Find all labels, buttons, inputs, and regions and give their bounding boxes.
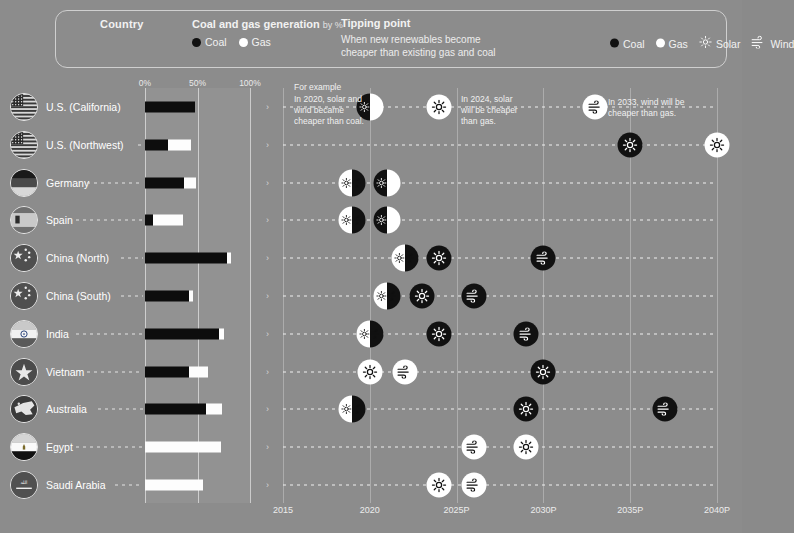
- tipping-point-marker-wind-black[interactable]: [514, 321, 539, 346]
- tipping-point-marker-solar-white[interactable]: [514, 435, 539, 460]
- wind-icon: [751, 36, 766, 51]
- generation-title-sub: by %: [323, 20, 343, 30]
- tipping-point-marker-solar-wind-white[interactable]: [339, 169, 366, 196]
- egypt-flag-icon: [10, 433, 38, 461]
- for-example-label: For example: [294, 82, 341, 92]
- tipping-point-marker-solar-black[interactable]: [409, 284, 434, 309]
- tipping-point-marker-solar-black[interactable]: [531, 359, 556, 384]
- tipping-legend-wind: Wind: [751, 36, 794, 51]
- leader-dots: [76, 447, 143, 448]
- gas-bar-segment: [227, 253, 231, 264]
- row-chevron-icon[interactable]: ›: [266, 215, 269, 225]
- tipping-point-marker-solar-black[interactable]: [618, 132, 643, 157]
- tipping-legend-gas-label: Gas: [669, 37, 688, 49]
- tipping-point-marker-solar-wind-white[interactable]: [391, 245, 418, 272]
- tipping-point-marker-wind-white[interactable]: [461, 435, 486, 460]
- table-row[interactable]: Spain›: [0, 201, 742, 239]
- tipping-legend: Coal Gas Solar Wind: [610, 36, 794, 51]
- header-country-label: Country: [100, 18, 144, 30]
- generation-bar: [145, 291, 250, 302]
- solar-icon: [519, 402, 534, 417]
- filled-circle-icon: [610, 39, 619, 48]
- country-name: Spain: [46, 214, 73, 226]
- tipping-point-marker-wind-black[interactable]: [531, 246, 556, 271]
- tipping-point-marker-wind-black[interactable]: [461, 284, 486, 309]
- row-chevron-icon[interactable]: ›: [266, 404, 269, 414]
- coal-bar-segment: [145, 328, 219, 339]
- tipping-point-marker-solar-wind-white[interactable]: [356, 320, 383, 347]
- table-row[interactable]: India›: [0, 315, 742, 353]
- solar-icon: [699, 36, 712, 51]
- table-row[interactable]: اللهSaudi Arabia›: [0, 466, 742, 504]
- row-chevron-icon[interactable]: ›: [266, 291, 269, 301]
- solar-icon: [519, 440, 534, 455]
- gas-bar-segment: [189, 366, 208, 377]
- generation-bar: [145, 404, 250, 415]
- row-chevron-icon[interactable]: ›: [266, 329, 269, 339]
- table-row[interactable]: Australia›: [0, 390, 742, 428]
- usa-flag-icon: [10, 93, 38, 121]
- coal-bar-segment: [145, 253, 227, 264]
- tipping-point-marker-solar-black[interactable]: [427, 246, 452, 271]
- country-name: Vietnam: [46, 366, 84, 378]
- solar-wind-icon: [359, 329, 381, 340]
- tipping-point-marker-solar-wind-black[interactable]: [374, 207, 401, 234]
- row-chevron-icon[interactable]: ›: [266, 102, 269, 112]
- country-name: China (North): [46, 252, 109, 264]
- tipping-point-marker-wind-black[interactable]: [652, 397, 677, 422]
- open-circle-icon: [656, 39, 665, 48]
- tipping-point-marker-solar-wind-white[interactable]: [339, 207, 366, 234]
- anno-2033-l2: cheaper than gas.: [608, 108, 700, 119]
- row-chevron-icon[interactable]: ›: [266, 178, 269, 188]
- china-flag-icon: [10, 244, 38, 272]
- header-generation-title: Coal and gas generation by %: [192, 18, 343, 30]
- anno-2020-l1: In 2020, solar and: [294, 94, 370, 105]
- table-row[interactable]: Vietnam›: [0, 353, 742, 391]
- solar-icon: [432, 251, 447, 266]
- generation-bar: [145, 253, 250, 264]
- timeline-track: [283, 296, 717, 297]
- usa-flag-icon: [10, 131, 38, 159]
- table-row[interactable]: China (South)›: [0, 277, 742, 315]
- tipping-point-marker-solar-white[interactable]: [427, 473, 452, 498]
- tipping-point-marker-wind-white[interactable]: [392, 359, 417, 384]
- row-chevron-icon[interactable]: ›: [266, 442, 269, 452]
- tipping-legend-coal: Coal: [610, 37, 645, 49]
- tipping-legend-solar-label: Solar: [716, 37, 741, 49]
- solar-wind-icon: [376, 291, 398, 302]
- table-row[interactable]: China (North)›: [0, 239, 742, 277]
- tipping-point-marker-solar-white[interactable]: [705, 132, 730, 157]
- row-chevron-icon[interactable]: ›: [266, 480, 269, 490]
- row-chevron-icon[interactable]: ›: [266, 253, 269, 263]
- gas-bar-segment: [145, 480, 203, 491]
- row-chevron-icon[interactable]: ›: [266, 367, 269, 377]
- saudi-flag-icon: الله: [10, 471, 38, 499]
- table-row[interactable]: U.S. (Northwest)›: [0, 126, 742, 164]
- tipping-point-marker-solar-wind-black[interactable]: [374, 169, 401, 196]
- wind-icon: [397, 365, 413, 378]
- table-row[interactable]: Egypt›: [0, 428, 742, 466]
- tipping-point-marker-solar-white[interactable]: [357, 359, 382, 384]
- tipping-point-marker-solar-black[interactable]: [514, 397, 539, 422]
- timeline-axis-tick: 2020: [360, 505, 380, 515]
- tipping-point-marker-solar-white[interactable]: [427, 95, 452, 120]
- coal-bar-segment: [145, 404, 206, 415]
- tipping-point-marker-wind-white[interactable]: [461, 473, 486, 498]
- generation-bar: [145, 480, 250, 491]
- solar-wind-icon: [342, 215, 364, 226]
- tipping-point-marker-solar-wind-white[interactable]: [339, 396, 366, 423]
- header-tipping-title: Tipping point: [341, 17, 410, 29]
- solar-icon: [432, 326, 447, 341]
- gas-bar-segment: [153, 215, 182, 226]
- country-name: China (South): [46, 290, 111, 302]
- svg-text:الله: الله: [21, 480, 28, 485]
- table-row[interactable]: Germany›: [0, 164, 742, 202]
- tipping-point-marker-solar-wind-white[interactable]: [374, 283, 401, 310]
- solar-wind-icon: [376, 177, 398, 188]
- gas-bar-segment: [145, 442, 221, 453]
- tipping-point-marker-solar-black[interactable]: [427, 321, 452, 346]
- anno-2024-l3: than gas.: [461, 116, 541, 127]
- tipping-point-marker-wind-white[interactable]: [583, 95, 608, 120]
- row-chevron-icon[interactable]: ›: [266, 140, 269, 150]
- country-name: Germany: [46, 177, 89, 189]
